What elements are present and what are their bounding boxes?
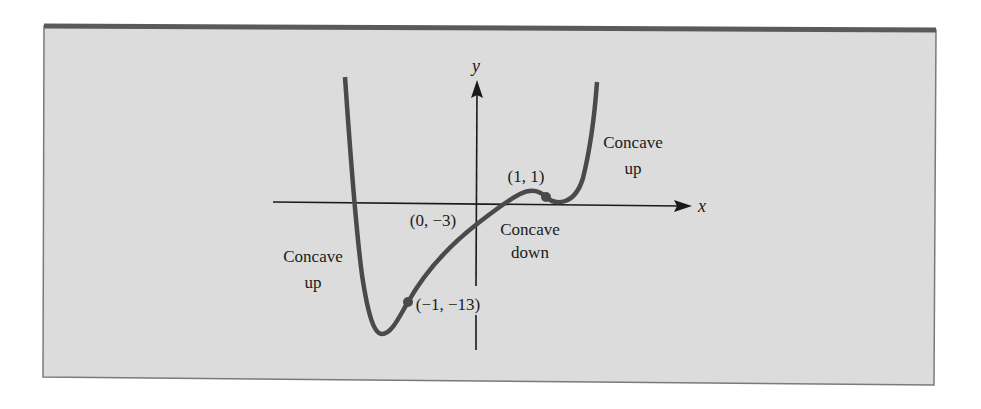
y-axis-label: y [470,56,480,76]
annotation-line: down [511,243,549,262]
inflection-point-right [541,192,551,202]
annotation-line: Concave [500,220,559,239]
annotation-line: up [305,273,322,292]
x-axis-label: x [697,196,706,216]
annotation-line: up [625,159,642,178]
concavity-figure: x y (0, −3) (−1, −13) (1, 1) Concave up … [0,0,981,409]
inflection-point-left [403,297,413,307]
figure-panel [43,26,936,385]
annotation-line: Concave [283,247,342,266]
annotation-line: Concave [603,133,662,152]
label-y-intercept: (0, −3) [410,211,456,230]
label-left-inflection: (−1, −13) [416,295,481,314]
label-right-inflection: (1, 1) [508,167,545,186]
